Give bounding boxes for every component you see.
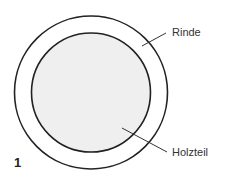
label-holzteil: Holzteil bbox=[172, 147, 208, 158]
figure-number: 1 bbox=[14, 156, 21, 169]
label-rinde: Rinde bbox=[172, 27, 201, 38]
